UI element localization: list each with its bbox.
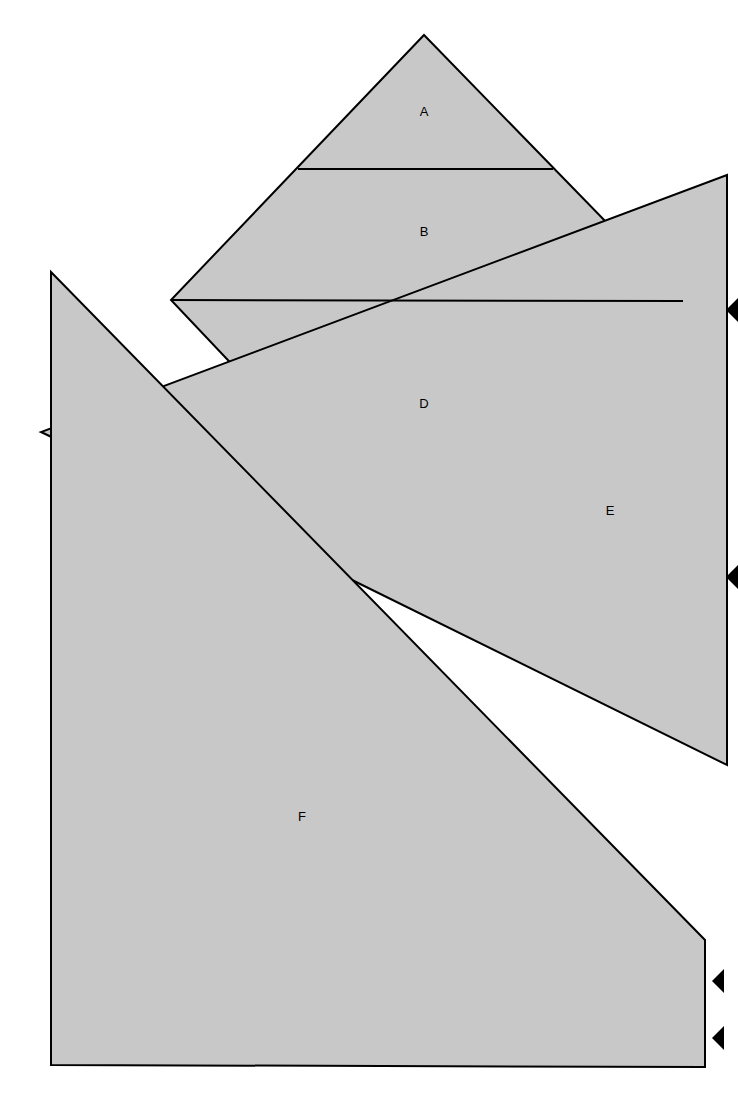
geometric-diagram: A B D E F bbox=[0, 0, 738, 1120]
figure-canvas: A B D E F bbox=[0, 0, 738, 1120]
region-label-e: E bbox=[606, 503, 615, 518]
divider-line-b-d bbox=[171, 300, 683, 301]
region-label-a: A bbox=[420, 104, 429, 119]
region-label-b: B bbox=[420, 224, 429, 239]
region-label-d: D bbox=[419, 396, 428, 411]
region-label-f: F bbox=[298, 809, 306, 824]
